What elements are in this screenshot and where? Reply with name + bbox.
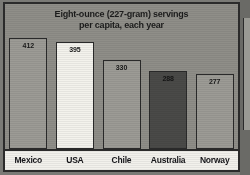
page-edge-strip — [243, 18, 250, 130]
bar-value-label: 395 — [57, 46, 93, 53]
category-label: USA — [52, 155, 99, 165]
bar-group: 288 — [149, 71, 187, 149]
bar-value-label: 412 — [10, 42, 46, 49]
bar-value-label: 277 — [197, 78, 233, 85]
bar-group: 395 — [56, 42, 94, 149]
chart-figure: Eight-ounce (227-gram) servings per capi… — [0, 0, 250, 175]
chart-title: Eight-ounce (227-gram) servings per capi… — [5, 9, 238, 30]
bar: 277 — [196, 74, 234, 149]
bar-group: 330 — [103, 60, 141, 149]
category-label: Chile — [98, 155, 145, 165]
chart-title-line-1: Eight-ounce (227-gram) servings — [5, 9, 238, 20]
chart-title-line-2: per capita, each year — [5, 20, 238, 31]
bar: 288 — [149, 71, 187, 149]
bar-group: 277 — [196, 74, 234, 149]
bar-value-label: 330 — [104, 64, 140, 71]
chart-frame: Eight-ounce (227-gram) servings per capi… — [3, 2, 240, 172]
category-label: Australia — [145, 155, 192, 165]
category-label-strip: MexicoUSAChileAustraliaNorway — [5, 149, 238, 170]
category-label: Norway — [191, 155, 238, 165]
bar: 330 — [103, 60, 141, 149]
bar-group: 412 — [9, 38, 47, 149]
plot-area: 412395330288277 — [5, 30, 238, 149]
bar: 412 — [9, 38, 47, 149]
bar-value-label: 288 — [150, 75, 186, 82]
category-label: Mexico — [5, 155, 52, 165]
bar: 395 — [56, 42, 94, 149]
